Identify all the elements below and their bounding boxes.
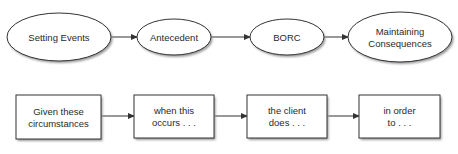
in-order-to-label: to . . . (388, 117, 412, 128)
when-this-occurs-label: when this (153, 105, 194, 116)
maintaining-consequences-label: Maintaining (376, 26, 425, 37)
borc-label: BORC (273, 32, 301, 43)
top-row-ellipses: Setting EventsAntecedentBORCMaintainingC… (7, 12, 454, 64)
behavior-chain-diagram: Setting EventsAntecedentBORCMaintainingC… (0, 0, 458, 154)
given-these-circumstances-label: Given these (33, 106, 84, 117)
maintaining-consequences-label: Consequences (368, 38, 432, 49)
the-client-does-label: does . . . (269, 117, 305, 128)
ellipse-node-maintaining-consequences: MaintainingConsequences (348, 12, 454, 64)
box-node-in-order-to: in orderto . . . (359, 95, 442, 140)
bottom-row-rectangles: Given thesecircumstanceswhen thisoccurs … (16, 95, 442, 141)
antecedent-label: Antecedent (150, 32, 198, 43)
ellipse-node-setting-events: Setting Events (7, 13, 113, 63)
the-client-does-label: the client (268, 105, 306, 116)
given-these-circumstances-label: circumstances (28, 118, 89, 129)
box-node-given-these-circumstances: Given thesecircumstances (16, 95, 103, 141)
when-this-occurs-label: occurs . . . (152, 117, 196, 128)
box-node-when-this-occurs: when thisoccurs . . . (134, 95, 216, 140)
ellipse-node-borc: BORC (250, 19, 326, 57)
box-node-the-client-does: the clientdoes . . . (247, 95, 329, 140)
ellipse-node-antecedent: Antecedent (137, 19, 213, 57)
in-order-to-label: in order (383, 105, 415, 116)
setting-events-label: Setting Events (28, 32, 90, 43)
